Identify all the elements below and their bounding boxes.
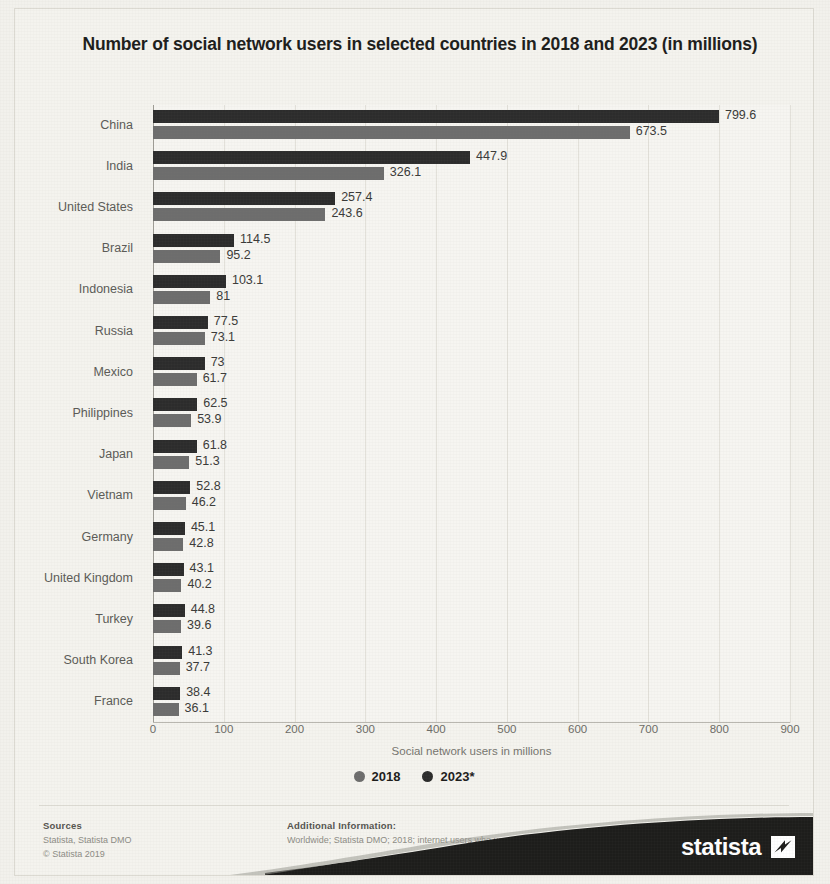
x-axis-label: Social network users in millions [153, 745, 790, 757]
bar-2023-mexico[interactable] [153, 357, 205, 370]
bar-group: 799.6673.5 [153, 105, 790, 146]
bar-2018-indonesia[interactable] [153, 291, 210, 304]
bar-group: 7361.7 [153, 352, 790, 393]
bar-group: 257.4243.6 [153, 187, 790, 228]
bar-2023-turkey[interactable] [153, 604, 185, 617]
bar-value-label: 77.5 [214, 315, 238, 328]
bar-value-label: 326.1 [390, 166, 421, 179]
gridline-900 [790, 105, 791, 723]
bar-value-label: 95.2 [226, 249, 250, 262]
bar-value-label: 61.8 [203, 439, 227, 452]
bar-group: 45.142.8 [153, 517, 790, 558]
bar-2023-united-states[interactable] [153, 192, 335, 205]
x-tick-200: 200 [285, 723, 304, 735]
category-label-united-states: United States [0, 200, 133, 214]
bar-2023-germany[interactable] [153, 522, 185, 535]
bar-2018-brazil[interactable] [153, 250, 220, 263]
bar-value-label: 799.6 [725, 109, 756, 122]
legend-item-2018[interactable]: 2018 [354, 769, 401, 784]
statista-logo-text: statista [681, 833, 761, 861]
bar-value-label: 103.1 [232, 274, 263, 287]
statista-arrow-icon [771, 836, 795, 858]
bar-2023-indonesia[interactable] [153, 275, 226, 288]
x-tick-500: 500 [497, 723, 516, 735]
x-tick-900: 900 [780, 723, 799, 735]
bar-group: 52.846.2 [153, 476, 790, 517]
bar-value-label: 73.1 [211, 331, 235, 344]
additional-information-heading: Additional Information: [287, 819, 747, 834]
bar-2023-china[interactable] [153, 110, 719, 123]
x-tick-600: 600 [568, 723, 587, 735]
bar-group: 103.181 [153, 270, 790, 311]
category-axis-labels: ChinaIndiaUnited StatesBrazilIndonesiaRu… [0, 105, 143, 723]
x-axis-ticks: 0100200300400500600700800900 [153, 723, 790, 743]
category-label-china: China [0, 118, 133, 132]
bar-value-label: 44.8 [191, 603, 215, 616]
bar-value-label: 53.9 [197, 413, 221, 426]
bar-value-label: 41.3 [188, 645, 212, 658]
bar-value-label: 61.7 [203, 372, 227, 385]
bar-group: 61.851.3 [153, 435, 790, 476]
bar-2018-united-kingdom[interactable] [153, 579, 181, 592]
bar-2018-russia[interactable] [153, 332, 205, 345]
bar-2023-philippines[interactable] [153, 398, 197, 411]
bar-value-label: 81 [216, 290, 230, 303]
bar-2018-philippines[interactable] [153, 414, 191, 427]
footer-sources: Sources Statista, Statista DMO © Statist… [43, 819, 273, 862]
bar-2023-vietnam[interactable] [153, 481, 190, 494]
bar-2018-vietnam[interactable] [153, 497, 186, 510]
category-label-france: France [0, 694, 133, 708]
legend-item-2023[interactable]: 2023* [422, 769, 474, 784]
bar-group: 77.573.1 [153, 311, 790, 352]
bar-value-label: 447.9 [476, 150, 507, 163]
bar-value-label: 37.7 [186, 661, 210, 674]
footer-additional-information: Additional Information: Worldwide; Stati… [287, 819, 747, 848]
bar-value-label: 51.3 [195, 455, 219, 468]
bar-2018-united-states[interactable] [153, 208, 325, 221]
legend-label: 2023* [440, 769, 474, 784]
category-label-philippines: Philippines [0, 406, 133, 420]
category-label-germany: Germany [0, 530, 133, 544]
bar-value-label: 40.2 [187, 578, 211, 591]
category-label-russia: Russia [0, 324, 133, 338]
category-label-vietnam: Vietnam [0, 488, 133, 502]
bar-value-label: 42.8 [189, 537, 213, 550]
additional-information-line-1: Worldwide; Statista DMO; 2018; internet … [287, 834, 747, 848]
bar-value-label: 62.5 [203, 397, 227, 410]
x-tick-0: 0 [150, 723, 156, 735]
bar-value-label: 243.6 [331, 207, 362, 220]
bar-2023-south-korea[interactable] [153, 646, 182, 659]
bar-2018-germany[interactable] [153, 538, 183, 551]
bar-2023-brazil[interactable] [153, 234, 234, 247]
bar-2018-india[interactable] [153, 167, 384, 180]
category-label-united-kingdom: United Kingdom [0, 571, 133, 585]
bar-2018-mexico[interactable] [153, 373, 197, 386]
bar-group: 41.337.7 [153, 641, 790, 682]
bar-value-label: 38.4 [186, 686, 210, 699]
bar-2018-turkey[interactable] [153, 620, 181, 633]
footer-divider [39, 805, 789, 806]
legend-label: 2018 [372, 769, 401, 784]
plot-area: ChinaIndiaUnited StatesBrazilIndonesiaRu… [153, 105, 790, 723]
x-tick-700: 700 [639, 723, 658, 735]
bar-2023-france[interactable] [153, 687, 180, 700]
bar-2018-china[interactable] [153, 126, 630, 139]
bar-2018-france[interactable] [153, 703, 179, 716]
sources-line-1: Statista, Statista DMO [43, 834, 273, 848]
bar-2018-japan[interactable] [153, 456, 189, 469]
bar-2023-india[interactable] [153, 151, 470, 164]
bar-group: 43.140.2 [153, 558, 790, 599]
bar-value-label: 39.6 [187, 619, 211, 632]
chart-legend: 20182023* [15, 769, 813, 784]
category-label-japan: Japan [0, 447, 133, 461]
category-label-mexico: Mexico [0, 365, 133, 379]
bar-value-label: 52.8 [196, 480, 220, 493]
sources-heading: Sources [43, 819, 273, 834]
legend-dot-2023 [422, 771, 433, 782]
bar-2023-russia[interactable] [153, 316, 208, 329]
chart-title: Number of social network users in select… [75, 31, 765, 58]
bar-2023-united-kingdom[interactable] [153, 563, 184, 576]
x-tick-100: 100 [214, 723, 233, 735]
bar-2023-japan[interactable] [153, 440, 197, 453]
bar-2018-south-korea[interactable] [153, 662, 180, 675]
